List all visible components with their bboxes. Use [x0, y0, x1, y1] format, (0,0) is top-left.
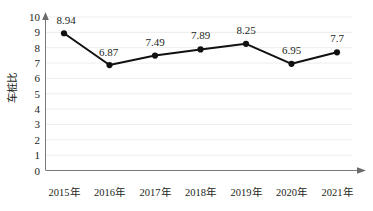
- y-axis-tick-label: 1: [35, 149, 41, 161]
- x-axis-tick-label: 2019年: [231, 186, 262, 198]
- x-axis-tick-label: 2018年: [185, 186, 216, 198]
- data-value-label: 7.7: [330, 32, 344, 44]
- y-axis-tick-label: 2: [35, 134, 41, 146]
- x-axis-tick-label: 2017年: [140, 186, 171, 198]
- line-chart: 012345678910 2015年2016年2017年2018年2019年20…: [0, 0, 373, 211]
- x-axis-tick-label: 2016年: [94, 186, 125, 198]
- x-axis-tick-label: 2015年: [49, 186, 80, 198]
- x-axis-tick-label: 2020年: [276, 186, 307, 198]
- data-value-label: 7.89: [191, 29, 211, 41]
- data-point-marker: [106, 62, 112, 68]
- y-axis-tick-label: 5: [35, 88, 41, 100]
- data-value-label: 6.95: [282, 44, 302, 56]
- data-point-marker: [197, 46, 203, 52]
- y-axis-tick-label: 9: [35, 26, 41, 38]
- data-value-label: 8.94: [56, 14, 76, 26]
- data-value-label: 6.87: [99, 46, 119, 58]
- data-point-marker: [334, 49, 340, 55]
- y-axis-tick-label: 10: [29, 11, 41, 23]
- x-axis-tick-labels: 2015年2016年2017年2018年2019年2020年2021年: [49, 186, 353, 198]
- y-axis-tick-label: 3: [35, 118, 41, 130]
- y-axis-title: 车桩比: [6, 73, 18, 103]
- y-axis-tick-label: 6: [35, 72, 41, 84]
- y-axis-tick-label: 0: [35, 165, 41, 177]
- data-point-marker: [152, 52, 158, 58]
- data-value-label: 8.25: [236, 24, 256, 36]
- chart-container: 012345678910 2015年2016年2017年2018年2019年20…: [0, 0, 373, 211]
- x-axis-tick-label: 2021年: [322, 186, 353, 198]
- data-point-marker: [243, 41, 249, 47]
- x-axis-arrow-icon: [357, 167, 366, 173]
- data-value-label: 7.49: [145, 36, 165, 48]
- data-point-marker: [61, 30, 67, 36]
- data-point-marker: [288, 61, 294, 67]
- y-axis-tick-labels: 012345678910: [29, 11, 41, 177]
- y-axis-tick-label: 7: [35, 57, 41, 69]
- y-axis-tick-label: 4: [35, 103, 41, 115]
- y-axis-tick-label: 8: [35, 42, 41, 54]
- y-axis-arrow-icon: [42, 12, 49, 20]
